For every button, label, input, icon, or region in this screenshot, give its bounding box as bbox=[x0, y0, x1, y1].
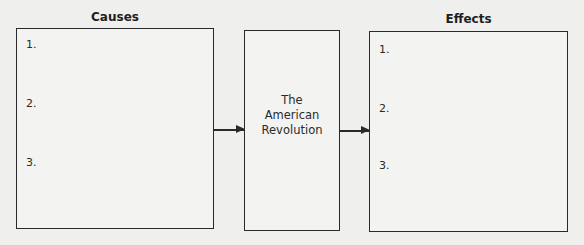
causes-item-3: 3. bbox=[26, 156, 37, 169]
causes-heading: Causes bbox=[16, 10, 214, 24]
center-box: The American Revolution bbox=[244, 30, 340, 231]
effects-box: 1. 2. 3. bbox=[369, 31, 568, 232]
effects-item-3: 3. bbox=[379, 159, 390, 172]
center-line-2: American bbox=[245, 108, 339, 123]
center-label: The American Revolution bbox=[245, 93, 339, 138]
arrow-center-to-effects bbox=[340, 130, 369, 132]
center-line-1: The bbox=[245, 93, 339, 108]
effects-item-1: 1. bbox=[379, 43, 390, 56]
effects-item-2: 2. bbox=[379, 102, 390, 115]
causes-box: 1. 2. 3. bbox=[16, 28, 214, 229]
center-line-3: Revolution bbox=[245, 123, 339, 138]
causes-item-1: 1. bbox=[26, 38, 37, 51]
effects-heading: Effects bbox=[369, 12, 568, 26]
arrow-causes-to-center bbox=[214, 129, 244, 131]
causes-item-2: 2. bbox=[26, 97, 37, 110]
